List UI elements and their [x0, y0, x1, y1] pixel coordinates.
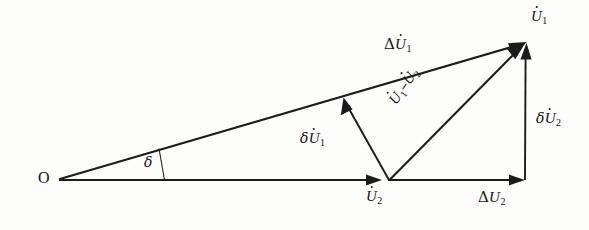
label-small-delta-U1-dot: δU1 — [300, 131, 325, 148]
label-delta-angle: δ — [144, 155, 153, 170]
delta-symbol: δ — [536, 110, 545, 126]
U-dot-glyph: U — [531, 9, 542, 24]
label-origin: O — [38, 170, 50, 186]
label-U2-dot: U2 — [366, 189, 383, 206]
delta-U1-small-vector — [341, 98, 389, 181]
subscript: 1 — [320, 137, 325, 148]
U2-vector — [59, 175, 382, 186]
delta-angle-glyph: δ — [144, 154, 153, 170]
U-dot-glyph: U — [545, 111, 556, 126]
delta-U1-small-vector-line — [349, 108, 390, 180]
label-delta-U2-plain: ΔU2 — [478, 190, 506, 207]
U-dot-glyph: U — [395, 37, 406, 52]
delta-symbol: Δ — [384, 35, 395, 53]
phasor-diagram-figure: O δ ΔU1 U1 δU2 δU1 U1–U2 U2 ΔU2 — [0, 0, 589, 230]
label-delta-U1-dot: ΔU1 — [384, 37, 412, 54]
delta-symbol: Δ — [478, 188, 489, 206]
delta-U2-baseline-vector — [388, 175, 525, 186]
subscript: 2 — [556, 117, 561, 128]
U2-vector-arrowhead — [366, 175, 382, 186]
delta-angle-marker-line — [159, 149, 165, 181]
delta-symbol: δ — [300, 130, 309, 146]
subscript: 1 — [542, 15, 547, 26]
delta-U2-vertical-vector — [520, 43, 531, 180]
delta-U1-vector-line — [59, 46, 517, 180]
delta-angle-marker — [159, 149, 165, 181]
delta-U2-baseline-vector-arrowhead — [509, 175, 525, 186]
subscript: 2 — [377, 195, 382, 206]
label-small-delta-U2-dot: δU2 — [536, 111, 561, 128]
U-dot-glyph: U — [366, 189, 377, 204]
U-dot-glyph: U — [309, 131, 320, 146]
subscript: 2 — [500, 196, 505, 207]
U-glyph: U — [489, 189, 500, 205]
delta-U2-vertical-vector-line — [525, 53, 526, 180]
subscript: 1 — [406, 43, 411, 54]
label-U1-dot: U1 — [531, 9, 548, 26]
